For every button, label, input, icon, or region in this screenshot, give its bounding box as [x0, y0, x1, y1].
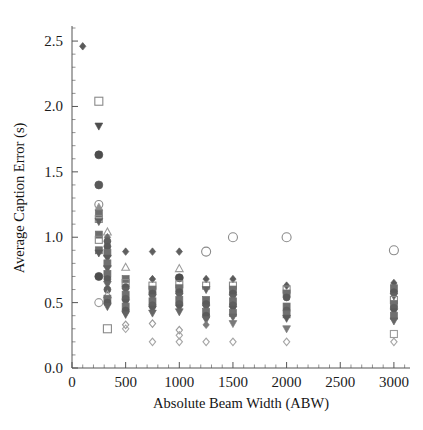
y-tick-label: 0.5 — [44, 295, 63, 311]
data-point-triangle-down-filled — [229, 314, 237, 321]
data-point-square-open — [103, 325, 111, 333]
data-point-circle-open — [228, 233, 237, 242]
data-point-diamond-filled — [149, 248, 155, 256]
x-tick-label: 0 — [68, 374, 76, 390]
data-point-diamond-filled — [176, 248, 182, 256]
data-point-square-open — [95, 97, 103, 105]
data-point-circle-open — [95, 299, 103, 307]
data-point-triangle-down-filled — [390, 318, 398, 325]
data-point-triangle-down-filled — [283, 315, 291, 322]
data-point-diamond-open — [149, 338, 155, 346]
data-point-diamond-filled — [123, 248, 129, 256]
y-axis-title: Average Caption Error (s) — [11, 122, 28, 273]
data-point-triangle-down-filled — [229, 321, 237, 328]
data-point-diamond-open — [203, 338, 209, 346]
data-point-circle-filled — [104, 243, 111, 250]
data-point-diamond-filled — [80, 43, 86, 51]
data-point-triangle-up-filled — [95, 203, 103, 210]
x-tick-label: 2000 — [272, 374, 302, 390]
x-axis-tick-labels: 050010001500200025003000 — [68, 374, 409, 390]
data-point-diamond-open — [149, 320, 155, 328]
data-point-triangle-down-filled — [202, 287, 210, 294]
x-axis-title: Absolute Beam Width (ABW) — [153, 395, 329, 412]
data-point-triangle-down-filled — [95, 123, 103, 130]
data-point-triangle-down-filled — [149, 310, 157, 317]
data-point-triangle-down-filled — [175, 309, 183, 316]
x-tick-label: 1000 — [164, 374, 194, 390]
data-point-circle-filled — [104, 286, 111, 293]
data-point-circle-open — [282, 233, 291, 242]
data-point-triangle-down-filled — [122, 311, 130, 318]
x-tick-label: 1500 — [218, 374, 248, 390]
y-tick-label: 1.0 — [44, 229, 63, 245]
data-point-triangle-up-open — [122, 263, 130, 270]
x-tick-label: 2500 — [325, 374, 355, 390]
data-point-triangle-up-open — [175, 265, 183, 272]
data-point-square-open — [390, 331, 397, 338]
y-tick-label: 2.0 — [44, 98, 63, 114]
data-point-circle-filled — [95, 272, 103, 280]
data-point-markers — [80, 43, 399, 346]
scatter-plot-figure: 0.00.51.01.52.02.5 050010001500200025003… — [0, 0, 423, 430]
y-tick-label: 2.5 — [44, 33, 63, 49]
y-axis-minor-ticks — [72, 28, 76, 355]
x-tick-label: 3000 — [379, 374, 409, 390]
y-axis-tick-labels: 0.00.51.01.52.02.5 — [44, 33, 63, 376]
y-axis-major-ticks — [72, 41, 78, 368]
x-axis-major-ticks — [72, 362, 394, 368]
data-point-circle-open — [389, 246, 398, 255]
data-point-triangle-down-filled — [283, 326, 291, 333]
data-point-diamond-open — [230, 338, 236, 346]
data-point-diamond-open — [176, 326, 182, 334]
data-point-circle-open — [202, 247, 211, 256]
data-point-diamond-filled — [203, 321, 209, 329]
y-tick-label: 1.5 — [44, 164, 63, 180]
chart-canvas: 0.00.51.01.52.02.5 050010001500200025003… — [0, 0, 423, 430]
data-point-diamond-open — [283, 338, 289, 346]
data-point-square-filled — [95, 231, 102, 238]
data-point-diamond-open — [391, 338, 397, 346]
data-point-circle-filled — [95, 181, 103, 189]
x-tick-label: 500 — [114, 374, 137, 390]
x-axis-minor-ticks — [83, 365, 405, 369]
y-tick-label: 0.0 — [44, 360, 63, 376]
data-point-square-filled — [95, 210, 102, 217]
data-point-triangle-down-filled — [104, 304, 112, 311]
data-point-circle-filled — [95, 151, 103, 159]
data-point-circle-filled — [283, 294, 290, 301]
